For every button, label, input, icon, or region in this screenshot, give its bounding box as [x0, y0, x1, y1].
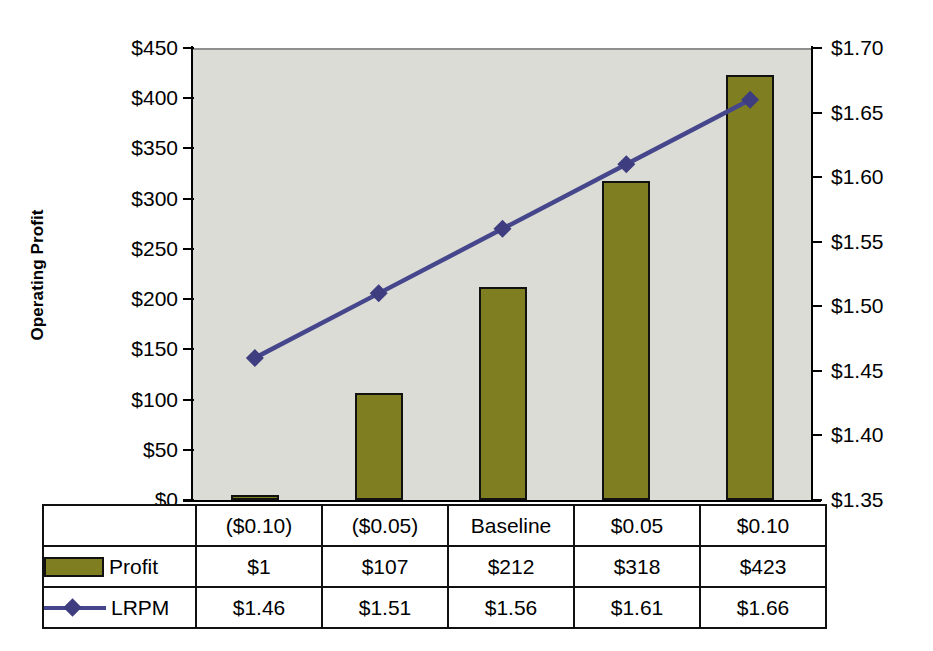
right-axis-tick	[811, 176, 822, 178]
legend-cell-profit[interactable]: Profit	[43, 546, 196, 587]
data-cell: $1.61	[574, 587, 700, 628]
left-axis-tick-label: $100	[98, 389, 178, 410]
table-row-categories: ($0.10)($0.05)Baseline$0.05$0.10	[43, 505, 826, 546]
lrpm-diamond-marker	[617, 155, 635, 173]
left-axis-title: Operating Profit	[28, 175, 48, 375]
left-axis-tick-label: $200	[98, 288, 178, 309]
table-corner-blank	[43, 505, 196, 546]
right-axis-tick	[811, 499, 822, 501]
data-cell: $423	[700, 546, 826, 587]
category-label-cell: Baseline	[448, 505, 574, 546]
lrpm-diamond-marker	[246, 349, 264, 367]
right-axis-tick-label: $1.65	[831, 102, 921, 123]
right-axis-tick-label: $1.70	[831, 37, 921, 58]
data-cell: $1.56	[448, 587, 574, 628]
left-axis-tick-label: $250	[98, 238, 178, 259]
legend-cell-lrpm[interactable]: LRPM	[43, 587, 196, 628]
data-cell: $1.51	[322, 587, 448, 628]
left-axis-tick-label: $350	[98, 137, 178, 158]
left-axis-tick-label: $50	[98, 439, 178, 460]
table-row: Profit$1$107$212$318$423	[43, 546, 826, 587]
lrpm-diamond-marker	[741, 91, 759, 109]
right-axis-tick	[811, 241, 822, 243]
right-axis-tick-label: $1.50	[831, 295, 921, 316]
lrpm-diamond-marker	[370, 284, 388, 302]
right-axis-tick-label: $1.35	[831, 489, 921, 510]
right-axis-tick	[811, 434, 822, 436]
data-table: ($0.10)($0.05)Baseline$0.05$0.10Profit$1…	[42, 504, 821, 626]
right-axis-tick-label: $1.45	[831, 360, 921, 381]
data-cell: $1	[196, 546, 322, 587]
right-axis-tick	[811, 370, 822, 372]
data-cell: $318	[574, 546, 700, 587]
right-axis-tick	[811, 112, 822, 114]
right-axis-tick	[811, 305, 822, 307]
category-axis-line	[183, 500, 821, 502]
left-axis-tick-label: $150	[98, 338, 178, 359]
category-label-cell: ($0.10)	[196, 505, 322, 546]
data-cell: $1.46	[196, 587, 322, 628]
right-axis-tick-label: $1.55	[831, 231, 921, 252]
legend-swatch-icon	[44, 557, 104, 577]
data-cell: $212	[448, 546, 574, 587]
category-label-cell: ($0.05)	[322, 505, 448, 546]
right-axis-tick-label: $1.60	[831, 166, 921, 187]
right-axis-tick-label: $1.40	[831, 424, 921, 445]
lrpm-diamond-marker	[494, 220, 512, 238]
left-axis-tick-label: $450	[98, 37, 178, 58]
line-series-lrpm	[193, 48, 812, 500]
right-axis-tick	[811, 47, 822, 49]
category-label-cell: $0.10	[700, 505, 826, 546]
table-row: LRPM$1.46$1.51$1.56$1.61$1.66	[43, 587, 826, 628]
legend-label: Profit	[104, 555, 195, 579]
data-cell: $107	[322, 546, 448, 587]
legend-line-marker-icon	[44, 598, 106, 618]
left-axis-tick-label: $300	[98, 188, 178, 209]
left-axis-tick-label: $400	[98, 87, 178, 108]
legend-label: LRPM	[106, 596, 195, 620]
data-cell: $1.66	[700, 587, 826, 628]
category-label-cell: $0.05	[574, 505, 700, 546]
